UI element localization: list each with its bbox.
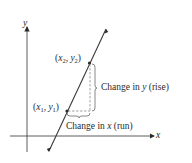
x-axis-label: x (156, 131, 160, 141)
rise-brace (92, 64, 97, 111)
y-axis-label: y (23, 19, 27, 29)
point-2-label: (x2, y2) (55, 54, 81, 65)
point-2 (88, 61, 91, 64)
point-1-label: (x1, y1) (33, 103, 59, 114)
sloped-line (49, 29, 106, 151)
run-label: Change in x (run) (66, 122, 133, 132)
run-brace (67, 113, 90, 118)
rise-label: Change in y (rise) (101, 83, 169, 93)
